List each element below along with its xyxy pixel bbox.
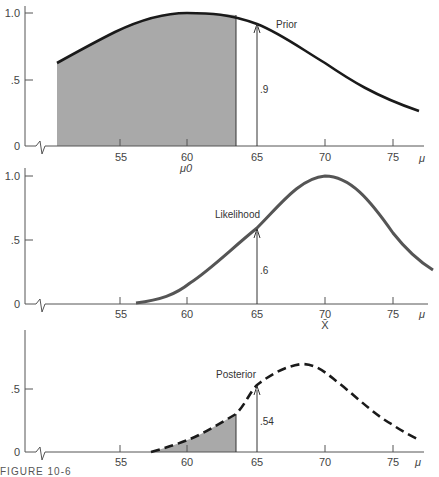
- likelihood-value-label: .6: [260, 265, 269, 276]
- likelihood-y-label-0: 0: [14, 298, 20, 310]
- prior-shaded-area: [57, 13, 236, 146]
- posterior-x-tick-65: 65: [251, 456, 263, 468]
- posterior-y-label-05: .5: [11, 383, 20, 395]
- likelihood-x-axis: [25, 299, 428, 312]
- likelihood-curve-label: Likelihood: [215, 209, 260, 220]
- likelihood-panel: 1.0 .5 0 55 60 65 70 75 μ X̄ .6 Likeliho…: [5, 168, 433, 331]
- posterior-curve-label: Posterior: [216, 369, 257, 380]
- likelihood-x-tick-60: 60: [181, 308, 193, 320]
- figure-caption: FIGURE 10-6: [0, 466, 72, 477]
- likelihood-y-label-1: 1.0: [5, 170, 20, 182]
- posterior-x-tick-55: 55: [115, 456, 127, 468]
- likelihood-x-tick-75: 75: [387, 308, 399, 320]
- posterior-x-tick-70: 70: [319, 456, 331, 468]
- posterior-x-tick-60: 60: [181, 456, 193, 468]
- prior-x-axis-symbol: μ: [418, 152, 425, 164]
- prior-value-label: .9: [260, 84, 269, 95]
- prior-panel: 1.0 .5 0 55 60 65 70 75 μ μ0 .9 Prior: [5, 6, 425, 174]
- posterior-panel: .5 0 55 60 65 70 75 μ .54 Posterior: [11, 330, 424, 468]
- prior-y-label-1: 1.0: [5, 7, 20, 19]
- posterior-x-tick-75: 75: [387, 456, 399, 468]
- prior-y-label-0: 0: [14, 140, 20, 152]
- posterior-shaded-area: [151, 414, 236, 452]
- prior-x-tick-65: 65: [251, 151, 263, 163]
- prior-y-label-05: .5: [11, 74, 20, 86]
- posterior-y-label-0: 0: [14, 446, 20, 458]
- likelihood-y-label-05: .5: [11, 234, 20, 246]
- prior-x-tick-55: 55: [115, 151, 127, 163]
- prior-x-tick-70: 70: [319, 151, 331, 163]
- likelihood-x-axis-symbol: μ: [418, 308, 425, 320]
- prior-curve-label: Prior: [276, 19, 298, 30]
- posterior-curve: [151, 364, 419, 452]
- posterior-value-label: .54: [260, 416, 274, 427]
- likelihood-x-tick-55: 55: [115, 308, 127, 320]
- posterior-x-axis-symbol: μ: [414, 456, 421, 468]
- likelihood-curve: [136, 176, 433, 303]
- figure: 1.0 .5 0 55 60 65 70 75 μ μ0 .9 Prior 1.…: [0, 0, 439, 477]
- xbar-label: X̄: [321, 319, 329, 331]
- mu0-label: μ0: [179, 162, 193, 174]
- likelihood-x-tick-65: 65: [251, 308, 263, 320]
- prior-x-tick-75: 75: [387, 151, 399, 163]
